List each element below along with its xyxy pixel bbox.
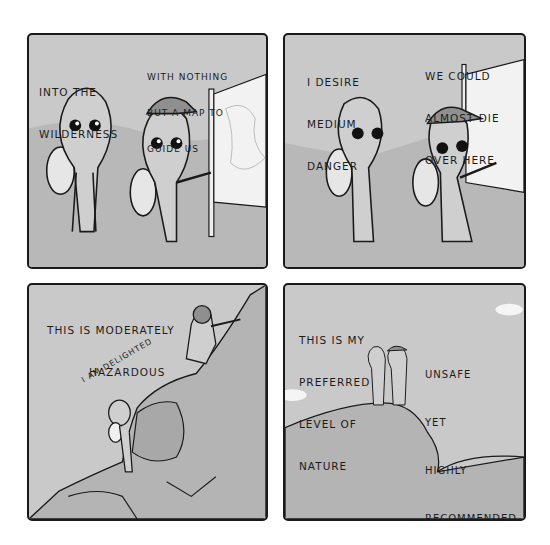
comic-panel-2: I DESIRE MEDIUM DANGER WE COULD ALMOST D… [283, 33, 526, 269]
comic-panel-3: THIS IS MODERATELY HAZARDOUS I AM DELIGH… [27, 283, 268, 521]
cloud-icon [495, 304, 523, 316]
caption-right: UNSAFE YET HIGHLY RECOMMENDED [425, 335, 517, 521]
caption-right: WE COULD ALMOST DIE OVER HERE [425, 41, 500, 195]
alien-delighted [109, 400, 133, 472]
comic-panel-4: THIS IS MY PREFERRED LEVEL OF NATURE UNS… [283, 283, 526, 521]
caption-right: WITH NOTHING BUT A MAP TO GUIDE US [147, 47, 228, 179]
caption-left: I DESIRE MEDIUM DANGER [307, 47, 360, 201]
alien-small-left [368, 346, 385, 405]
caption-top: THIS IS MODERATELY HAZARDOUS [47, 295, 175, 407]
comic-panel-1: INTO THE WILDERNESS WITH NOTHING BUT A M… [27, 33, 268, 269]
caption-left: INTO THE WILDERNESS [39, 57, 118, 169]
caption-left: THIS IS MY PREFERRED LEVEL OF NATURE [299, 305, 370, 501]
alien-small-right-with-cap [387, 346, 407, 405]
